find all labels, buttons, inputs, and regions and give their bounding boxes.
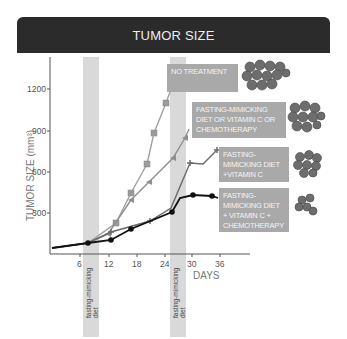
series-fmd-plus-vitc: [52, 147, 220, 248]
legend-label: FASTING-MIMICKING DIET OR VITAMIN C OR C…: [196, 105, 275, 134]
x-tick: 36: [215, 259, 224, 269]
legend-fmd-or-vitc-or-chemo: FASTING-MIMICKING DIET OR VITAMIN C OR C…: [192, 102, 286, 138]
x-tick: 6: [77, 259, 82, 269]
legend-fmd-vitc-chemo: FASTING-MIMICKING DIET + VITAMIN C + CHE…: [219, 188, 289, 232]
small-tumor-icon: [295, 194, 317, 215]
x-tick: 30: [187, 259, 196, 269]
x-tick: 24: [160, 259, 169, 269]
legend-no-treatment: NO TREATMENT: [167, 64, 238, 92]
large-tumor-icon: [242, 60, 290, 90]
y-tick: 600: [32, 167, 46, 177]
band-label-1: fasting-mimicking diet: [85, 258, 99, 318]
series-fmd-or-vitc-or-chemo: [52, 129, 189, 248]
medium-tumor-icon: [294, 151, 322, 178]
legend-label: FASTING-MIMICKING DIET + VITAMIN C + CHE…: [223, 191, 284, 230]
series-no-treatment: [52, 92, 170, 248]
legend-label: NO TREATMENT: [171, 67, 227, 76]
x-tick: 12: [104, 259, 113, 269]
legend-fmd-plus-vitc: FASTING-MIMICKING DIET +VITAMIN C: [219, 147, 289, 182]
y-tick: 900: [32, 126, 46, 136]
legend-label: FASTING-MIMICKING DIET +VITAMIN C: [223, 150, 280, 179]
x-axis-title: DAYS: [193, 270, 220, 281]
band-label-2: fasting-mimicking diet: [172, 258, 186, 318]
series-fmd-vitc-chemo: [52, 192, 218, 248]
large-tumor-icon: [288, 101, 325, 132]
y-tick: 300: [32, 208, 46, 218]
x-tick: 18: [132, 259, 141, 269]
y-tick: 1200: [27, 84, 46, 94]
